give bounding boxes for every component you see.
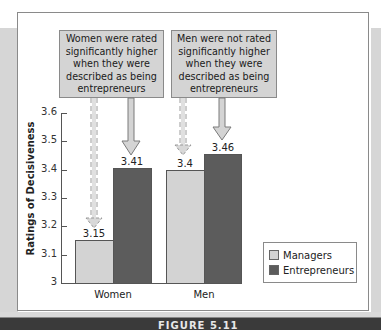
legend-swatch-entrepreneurs (269, 265, 279, 275)
y-tick (61, 255, 67, 256)
dashed-arrow-men-managers-icon (175, 98, 191, 155)
value-label-men-managers: 3.4 (165, 158, 205, 169)
solid-arrow-men-entrepreneurs-icon (213, 98, 231, 140)
value-label-women-entrepreneurs: 3.41 (112, 156, 152, 167)
value-label-women-managers: 3.15 (74, 228, 114, 239)
x-category-men: Men (174, 289, 234, 300)
solid-arrow-women-entrepreneurs-icon (122, 98, 140, 155)
x-category-women: Women (83, 289, 143, 300)
y-tick (61, 198, 67, 199)
bar-men-managers (166, 170, 205, 284)
legend-label-managers: Managers (283, 250, 332, 261)
y-tick (61, 226, 67, 227)
y-tick (61, 141, 67, 142)
legend-item-managers: Managers (269, 250, 332, 262)
y-tick-label: 3 (27, 276, 57, 287)
y-axis-title: Ratings of Decisiveness (25, 136, 36, 256)
dashed-arrow-women-managers-icon (86, 98, 102, 228)
figure-caption-label: FIGURE 5.11 (158, 320, 239, 330)
bar-women-entrepreneurs (113, 168, 152, 284)
y-tick-label: 3.6 (27, 106, 57, 117)
figure-caption-bar: FIGURE 5.11 (0, 317, 381, 330)
legend-swatch-managers (269, 250, 279, 260)
bar-men-entrepreneurs (204, 154, 242, 284)
legend-item-entrepreneurs: Entrepreneurs (269, 265, 354, 277)
bar-women-managers (75, 240, 114, 284)
y-tick (61, 170, 67, 171)
y-tick (61, 113, 67, 114)
legend-label-entrepreneurs: Entrepreneurs (283, 265, 354, 276)
value-label-men-entrepreneurs: 3.46 (203, 142, 243, 153)
legend: Managers Entrepreneurs (263, 242, 357, 283)
